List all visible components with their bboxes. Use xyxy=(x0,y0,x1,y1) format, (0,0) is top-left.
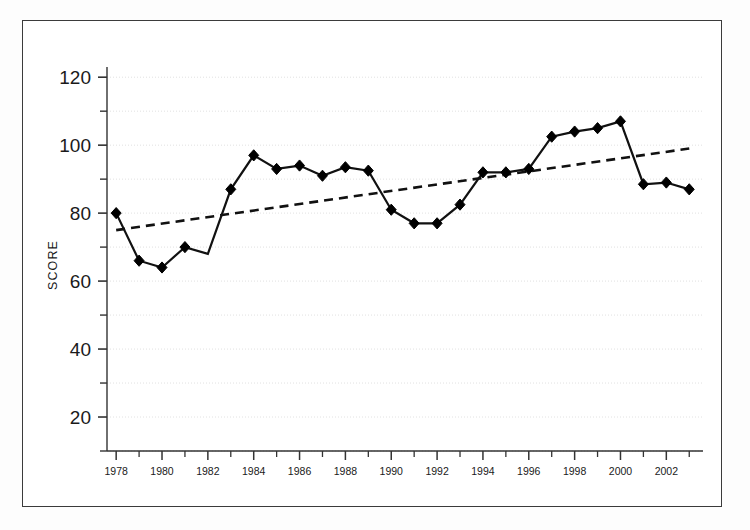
x-tick-label: 2000 xyxy=(609,465,633,477)
y-tick-label: 100 xyxy=(59,135,91,156)
y-tick-label: 120 xyxy=(59,67,91,88)
x-tick-label: 1980 xyxy=(150,465,174,477)
x-tick-label: 1988 xyxy=(334,465,358,477)
x-tick-label: 1984 xyxy=(242,465,266,477)
x-tick-label: 1992 xyxy=(425,465,449,477)
y-axis-title: SCORE xyxy=(46,240,60,290)
x-tick-label: 1986 xyxy=(288,465,312,477)
x-tick-label: 1990 xyxy=(380,465,404,477)
y-tick-label: 40 xyxy=(70,339,91,360)
x-tick-label: 1998 xyxy=(563,465,587,477)
x-tick-label: 1996 xyxy=(517,465,541,477)
x-tick-label: 2002 xyxy=(655,465,679,477)
x-tick-label: 1978 xyxy=(104,465,128,477)
chart-page: 20406080100120 1978198019821984198619881… xyxy=(0,0,750,530)
plot-background xyxy=(23,21,720,505)
y-tick-label: 60 xyxy=(70,271,91,292)
y-tick-label: 80 xyxy=(70,203,91,224)
score-line-chart: 20406080100120 1978198019821984198619881… xyxy=(23,21,720,505)
x-tick-label: 1994 xyxy=(471,465,495,477)
chart-frame: 20406080100120 1978198019821984198619881… xyxy=(22,20,722,507)
x-tick-label: 1982 xyxy=(196,465,220,477)
y-tick-label: 20 xyxy=(70,407,91,428)
